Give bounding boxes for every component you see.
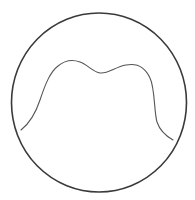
background — [0, 0, 195, 200]
diagram-canvas — [0, 0, 195, 200]
